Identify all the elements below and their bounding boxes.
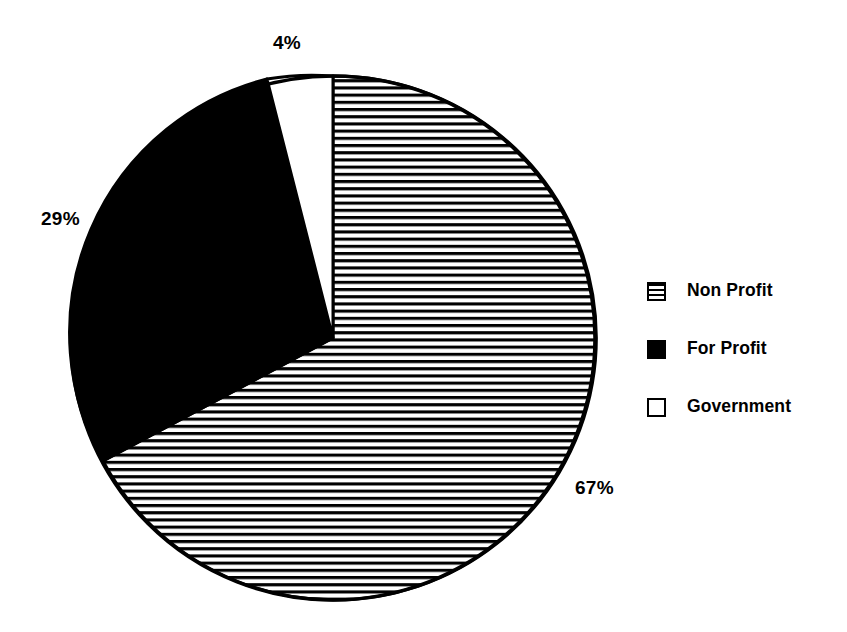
legend-item-label: For Profit xyxy=(687,340,767,358)
hatch-swatch-icon xyxy=(647,282,666,301)
legend-item-label: Non Profit xyxy=(687,282,773,300)
data-label-for-profit: 29% xyxy=(41,209,80,228)
legend-item-non-profit: Non Profit xyxy=(647,279,843,303)
legend-item-government: Government xyxy=(647,395,843,419)
pie-chart-figure: 4% 29% 67% Non Profit For Profit Governm… xyxy=(0,0,847,632)
data-label-non-profit: 67% xyxy=(575,478,614,497)
white-swatch-icon xyxy=(647,398,666,417)
data-label-government: 4% xyxy=(273,33,301,52)
legend-item-label: Government xyxy=(687,398,791,416)
solid-black-swatch-icon xyxy=(647,340,666,359)
chart-legend: Non Profit For Profit Government xyxy=(647,279,843,419)
legend-item-for-profit: For Profit xyxy=(647,337,843,361)
